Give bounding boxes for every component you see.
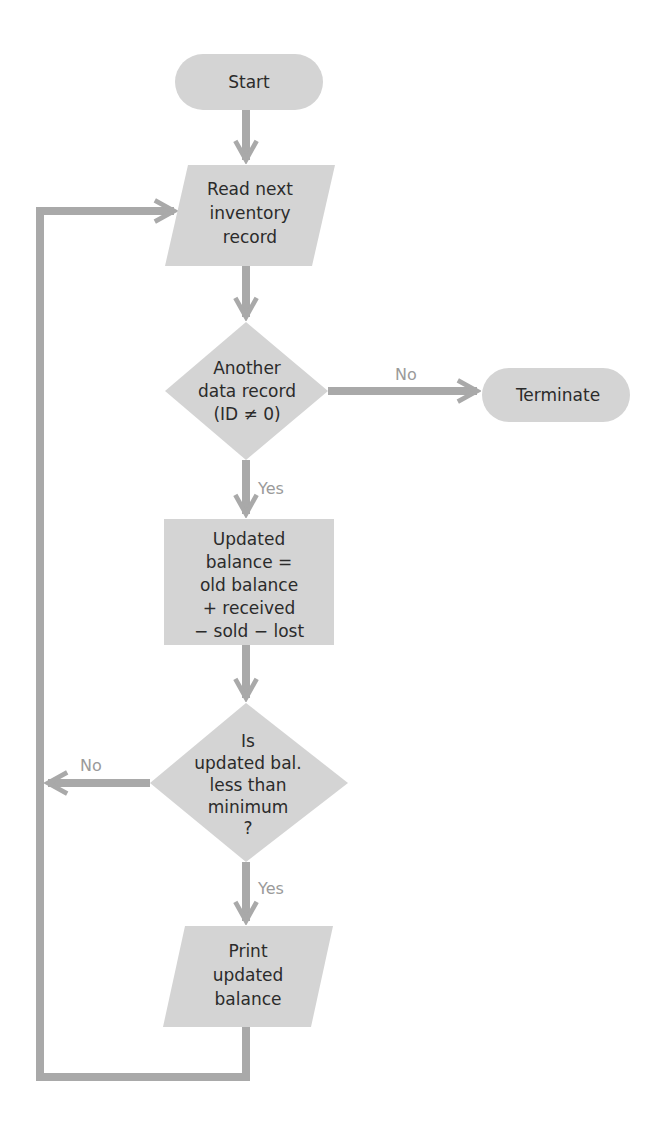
node-terminate: Terminate: [482, 368, 630, 422]
edge-label-decision1-yes: Yes: [257, 479, 284, 498]
read-label-line-2: inventory: [210, 203, 291, 223]
decision1-label-line-2: data record: [198, 381, 296, 401]
node-print-balance: Print updated balance: [163, 926, 333, 1027]
read-label-line-3: record: [223, 227, 277, 247]
node-decision-below-minimum: Is updated bal. less than minimum ?: [150, 703, 348, 862]
node-read-record: Read next inventory record: [165, 165, 335, 266]
inventory-flowchart: Start Read next inventory record Another…: [0, 0, 661, 1134]
edge-label-decision2-yes: Yes: [257, 879, 284, 898]
start-label: Start: [228, 72, 270, 92]
process-label-line-3: old balance: [200, 575, 298, 595]
process-label-line-4: + received: [203, 598, 296, 618]
edge-label-decision2-no: No: [80, 756, 102, 775]
process-label-line-2: balance =: [206, 552, 293, 572]
print-label-line-3: balance: [215, 989, 282, 1009]
edge-label-decision1-no: No: [395, 365, 417, 384]
node-start: Start: [175, 54, 323, 110]
process-label-line-5: − sold − lost: [194, 621, 304, 641]
process-label-line-1: Updated: [213, 529, 285, 549]
decision2-label-line-4: minimum: [208, 797, 289, 817]
terminate-label: Terminate: [515, 385, 600, 405]
decision1-label-line-1: Another: [213, 358, 281, 378]
decision2-label-line-3: less than: [210, 775, 287, 795]
node-decision-another-record: Another data record (ID ≠ 0): [165, 322, 328, 460]
decision2-label-line-5: ?: [243, 818, 252, 838]
print-label-line-1: Print: [228, 941, 267, 961]
decision2-label-line-2: updated bal.: [194, 753, 301, 773]
decision1-label-line-3: (ID ≠ 0): [213, 404, 280, 424]
print-label-line-2: updated: [213, 965, 284, 985]
decision2-label-line-1: Is: [241, 731, 255, 751]
read-label-line-1: Read next: [207, 179, 293, 199]
node-update-balance: Updated balance = old balance + received…: [164, 519, 334, 645]
